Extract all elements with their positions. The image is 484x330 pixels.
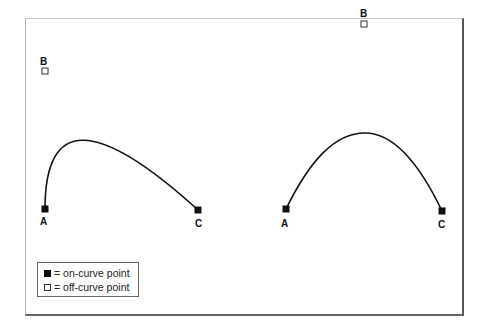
left-label-a: A bbox=[40, 217, 47, 227]
legend-on-curve-text: = on-curve point bbox=[54, 267, 130, 279]
left-point-b-off-curve-icon bbox=[42, 68, 48, 74]
left-label-b: B bbox=[40, 57, 47, 67]
right-point-c-on-curve-icon bbox=[439, 208, 446, 215]
right-quadratic-curve bbox=[286, 133, 442, 211]
legend-box: = on-curve point = off-curve point bbox=[37, 262, 139, 297]
left-label-c: C bbox=[195, 219, 202, 229]
left-point-c-on-curve-icon bbox=[195, 207, 202, 214]
hollow-square-icon bbox=[44, 284, 51, 291]
legend-off-curve: = off-curve point bbox=[44, 282, 129, 293]
right-point-a-on-curve-icon bbox=[283, 206, 290, 213]
legend-off-curve-text: = off-curve point bbox=[54, 281, 129, 293]
left-point-a-on-curve-icon bbox=[42, 206, 49, 213]
filled-square-icon bbox=[44, 270, 51, 277]
right-point-b-off-curve-icon bbox=[361, 21, 367, 27]
right-label-a: A bbox=[281, 219, 288, 229]
right-label-b: B bbox=[360, 9, 367, 19]
left-quadratic-curve bbox=[45, 140, 198, 210]
legend-on-curve: = on-curve point bbox=[44, 268, 130, 279]
right-label-c: C bbox=[438, 220, 445, 230]
